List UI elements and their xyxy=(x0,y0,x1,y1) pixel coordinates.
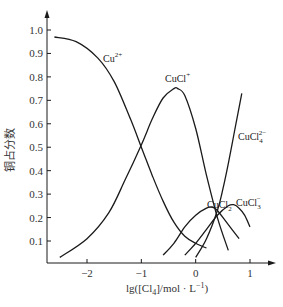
x-axis-arrow-icon xyxy=(268,261,276,266)
series-label-cucl-plus: CuCl+ xyxy=(165,71,190,84)
y-tick-label: 0.5 xyxy=(29,141,43,153)
x-tick-label: 1 xyxy=(247,267,253,279)
curves xyxy=(54,37,250,257)
y-tick-label: 0.9 xyxy=(29,47,43,59)
y-ticks: 0.10.20.30.40.50.60.70.80.91.0 xyxy=(29,24,51,247)
curve-cucl-plus xyxy=(60,88,229,258)
y-axis-title: 铜占分数 xyxy=(3,128,16,172)
curve-cu2plus xyxy=(54,37,206,248)
y-tick-label: 0.6 xyxy=(29,118,43,130)
x-axis-title: lg([Cl4]/mol · L−1) xyxy=(126,281,209,297)
series-labels: Cu2+CuCl+CuCl2CuCl3−CuCl42− xyxy=(103,51,266,213)
series-label-cucl2: CuCl2 xyxy=(207,199,232,213)
y-tick-label: 1.0 xyxy=(29,24,43,36)
x-tick-label: 0 xyxy=(193,267,199,279)
x-ticks: −2−101 xyxy=(81,259,253,279)
y-axis-arrow-icon xyxy=(45,10,50,18)
y-tick-label: 0.4 xyxy=(29,165,43,177)
series-label-cu2plus: Cu2+ xyxy=(103,51,122,64)
y-tick-label: 0.8 xyxy=(29,71,43,83)
y-tick-label: 0.7 xyxy=(29,94,43,106)
x-tick-label: −1 xyxy=(135,267,147,279)
speciation-chart: 0.10.20.30.40.50.60.70.80.91.0 −2−101 Cu… xyxy=(0,0,283,307)
y-tick-label: 0.2 xyxy=(29,212,43,224)
y-tick-label: 0.3 xyxy=(29,188,43,200)
y-tick-label: 0.1 xyxy=(29,235,43,247)
x-tick-label: −2 xyxy=(81,267,93,279)
series-label-cucl4-2minus: CuCl42− xyxy=(238,129,266,145)
